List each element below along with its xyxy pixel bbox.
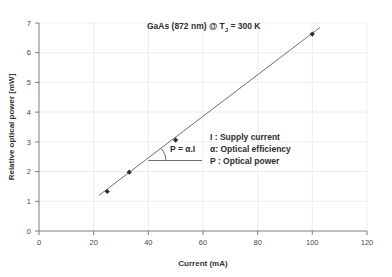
y-tick-label: 6 — [27, 48, 31, 57]
y-tick-label: 1 — [27, 197, 31, 206]
y-tick-label: 4 — [27, 108, 31, 117]
x-tick-label: 60 — [199, 238, 207, 247]
x-tick-label: 40 — [144, 238, 152, 247]
x-tick-label: 0 — [37, 238, 41, 247]
annot-pre: P = — [170, 144, 185, 154]
x-tick-label: 20 — [90, 238, 98, 247]
chart-background — [0, 0, 392, 277]
annot-post: .I — [190, 144, 195, 154]
x-tick-label: 120 — [361, 238, 374, 247]
x-tick-label: 100 — [306, 238, 319, 247]
legend: I : Supply current α: Optical efficiency… — [210, 132, 291, 166]
x-tick-label: 80 — [254, 238, 262, 247]
legend-label-1: Optical efficiency — [220, 144, 291, 154]
y-axis-title: Relative optical power [mW] — [7, 73, 16, 180]
y-tick-label: 2 — [27, 167, 31, 176]
chart-title-main: GaAs (872 nm) @ T — [147, 21, 226, 31]
legend-label-2: Optical power — [223, 156, 280, 166]
legend-label-0: Supply current — [220, 132, 280, 142]
plot-svg: 0 1 2 3 4 5 6 7 0 20 40 60 80 100 120 Cu… — [0, 0, 392, 277]
legend-sep-0: : — [212, 132, 220, 142]
slope-annotation-label: P = α.I — [170, 144, 195, 154]
chart-figure: 0 1 2 3 4 5 6 7 0 20 40 60 80 100 120 Cu… — [0, 0, 392, 277]
chart-title-tail: = 300 K — [228, 21, 261, 31]
legend-item-optical-power: P : Optical power — [210, 156, 280, 166]
y-tick-label: 7 — [27, 19, 31, 28]
y-tick-label: 5 — [27, 78, 31, 87]
chart-title: GaAs (872 nm) @ TJ = 300 K — [147, 21, 261, 33]
y-tick-label: 0 — [27, 227, 31, 236]
y-tick-label: 3 — [27, 138, 31, 147]
legend-item-optical-efficiency: α: Optical efficiency — [210, 144, 291, 154]
legend-item-supply-current: I : Supply current — [210, 132, 280, 142]
legend-sep-2: : — [216, 156, 224, 166]
x-axis-title: Current (mA) — [178, 259, 228, 268]
